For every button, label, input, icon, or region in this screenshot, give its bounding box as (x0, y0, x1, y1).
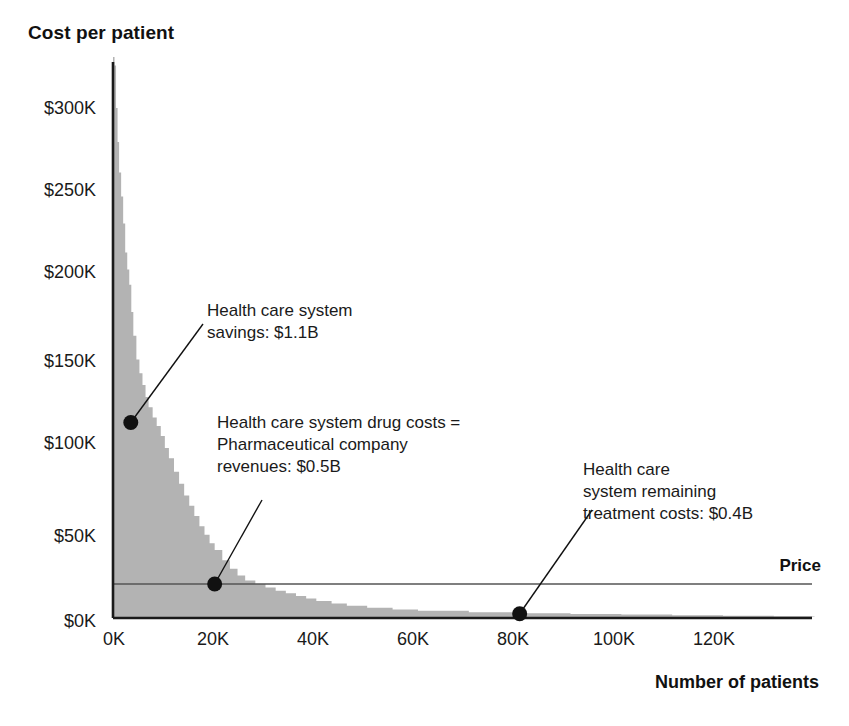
drug-costs-marker (207, 577, 222, 592)
remaining-costs-marker-leader-line (520, 510, 592, 614)
savings-marker (123, 415, 138, 430)
savings-annotation: Health care system savings: $1.1B (207, 300, 437, 344)
price-line-label: Price (779, 556, 821, 576)
remaining-costs-marker (512, 606, 527, 621)
cost-per-patient-chart: Cost per patient $0K $50K $100K $150K $2… (0, 0, 849, 726)
plot-area (0, 0, 849, 726)
remaining-costs-annotation: Health care system remaining treatment c… (583, 459, 833, 525)
x-axis-title: Number of patients (655, 672, 819, 693)
drug-costs-annotation: Health care system drug costs = Pharmace… (217, 412, 547, 478)
drug-costs-marker-leader-line (215, 500, 262, 584)
